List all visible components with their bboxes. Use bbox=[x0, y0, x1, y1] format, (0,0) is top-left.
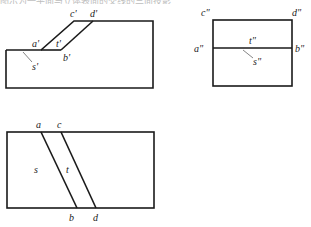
front-edge-bd bbox=[61, 21, 93, 50]
label-d-double-prime: d" bbox=[292, 7, 302, 18]
side-view: a" b" c" d" s" t" bbox=[194, 7, 305, 86]
label-s: s bbox=[34, 164, 38, 175]
label-b: b bbox=[69, 212, 74, 223]
side-leader-s bbox=[243, 50, 253, 58]
label-d-prime: d' bbox=[90, 8, 98, 19]
top-outline bbox=[7, 132, 154, 208]
three-view-drawing: a' b' c' d' s' t' a" b" c" d" s" t" a c … bbox=[0, 0, 311, 227]
label-c-double-prime: c" bbox=[201, 7, 210, 18]
front-outline bbox=[6, 21, 153, 88]
label-s-double-prime: s" bbox=[253, 56, 262, 67]
label-t-double-prime: t" bbox=[249, 35, 257, 46]
label-b-prime: b' bbox=[63, 52, 71, 63]
top-edge-ab bbox=[41, 132, 77, 208]
label-c-prime: c' bbox=[70, 8, 77, 19]
label-t-prime: t' bbox=[56, 38, 62, 49]
label-s-prime: s' bbox=[32, 61, 39, 72]
label-a-prime: a' bbox=[32, 38, 40, 49]
label-d: d bbox=[93, 212, 99, 223]
top-view: a c b d s t bbox=[7, 119, 154, 223]
front-view: a' b' c' d' s' t' bbox=[6, 8, 153, 88]
label-a-double-prime: a" bbox=[194, 43, 204, 54]
label-t: t bbox=[66, 164, 69, 175]
label-a: a bbox=[36, 119, 41, 130]
side-outline bbox=[213, 20, 292, 86]
front-leader-s bbox=[23, 52, 32, 62]
label-c: c bbox=[57, 119, 62, 130]
label-b-double-prime: b" bbox=[295, 43, 305, 54]
